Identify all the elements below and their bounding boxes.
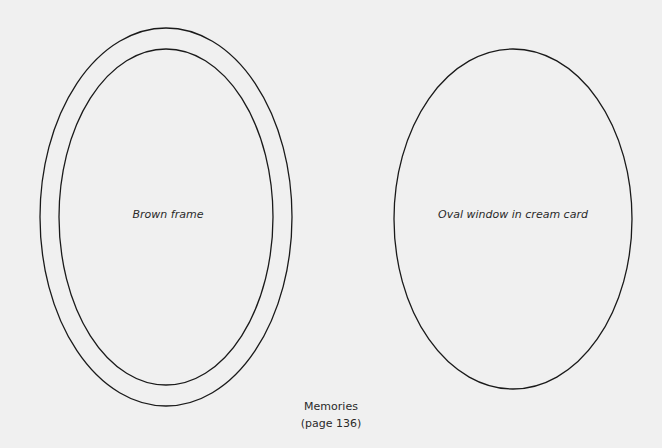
caption-title: Memories <box>301 398 362 415</box>
brown-frame-label: Brown frame <box>133 208 204 221</box>
caption-page: (page 136) <box>301 415 362 432</box>
template-caption: Memories (page 136) <box>301 398 362 432</box>
oval-window-label: Oval window in cream card <box>438 208 588 221</box>
template-diagram <box>0 0 662 448</box>
